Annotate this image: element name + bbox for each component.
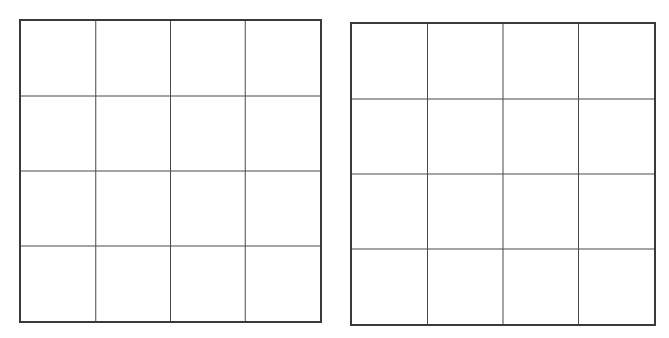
grid-left-lines	[21, 21, 320, 321]
grid-right-lines	[352, 24, 654, 324]
grid-left	[19, 19, 322, 323]
grid-right	[350, 22, 656, 326]
